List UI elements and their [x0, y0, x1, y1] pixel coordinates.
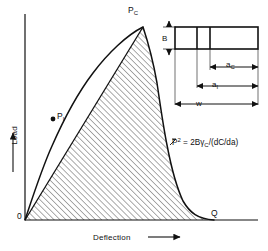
- curve-end-label: Q: [211, 209, 218, 218]
- initiation-load-label: PI: [57, 112, 64, 122]
- load-deflection-figure: [0, 0, 268, 251]
- y-axis-title: Load: [10, 116, 19, 156]
- x-axis-title: Deflection: [93, 233, 131, 242]
- specimen-body: [175, 27, 258, 49]
- initiation-point-marker: [51, 117, 56, 122]
- formula-exponent: 2: [177, 137, 180, 143]
- crack-length-c-label: aC: [226, 61, 235, 70]
- initiation-load-subscript: I: [63, 116, 65, 122]
- formula-coefficient: 2B: [190, 138, 200, 147]
- crack-length-i-label: aI: [212, 81, 218, 90]
- peak-load-subscript: C: [134, 10, 138, 16]
- crack-i-subscript: I: [216, 84, 218, 90]
- origin-label: 0: [17, 212, 22, 221]
- specimen-width-label: w: [196, 100, 202, 108]
- formula-equals: =: [183, 138, 188, 147]
- fracture-formula: P2 = 2BγC/(dC/da): [172, 137, 238, 148]
- crack-c-subscript: C: [230, 64, 234, 70]
- thickness-label: B: [162, 35, 167, 43]
- formula-denominator: /(dC/da): [209, 138, 239, 147]
- peak-load-label: PC: [128, 6, 138, 16]
